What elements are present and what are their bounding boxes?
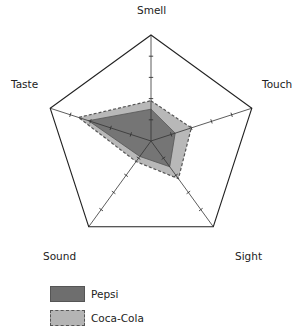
pepsi-swatch [50,286,85,302]
legend-item-pepsi: Pepsi [50,282,144,306]
axis-label-touch: Touch [262,78,292,90]
coca-cola-swatch [50,310,85,326]
axis-label-taste: Taste [11,78,38,90]
axis-line-sound [89,141,151,227]
axis-label-smell: Smell [137,4,166,16]
legend-label: Coca-Cola [91,312,144,324]
axis-tick [187,191,191,194]
axis-label-sight: Sight [235,250,262,262]
axis-tick [124,174,128,177]
legend-item-coca-cola: Coca-Cola [50,306,144,330]
legend: Pepsi Coca-Cola [50,282,144,330]
legend-label: Pepsi [91,288,118,300]
axis-tick [199,208,203,211]
axis-label-sound: Sound [43,250,76,262]
axis-tick [99,208,103,211]
axis-tick [112,191,116,194]
radar-chart [0,0,305,334]
